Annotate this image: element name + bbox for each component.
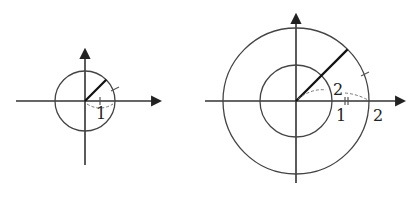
right-diagram: 2 1 2 — [205, 15, 404, 183]
right-arc-label: 2 — [333, 80, 343, 99]
left-radius-line — [85, 80, 106, 101]
right-inner-radius-label: 1 — [336, 106, 346, 125]
radian-diagrams: 1 2 1 2 — [0, 0, 416, 203]
right-outer-radius-label: 2 — [373, 106, 383, 125]
left-diagram: 1 — [16, 50, 160, 165]
left-radius-label: 1 — [96, 104, 106, 123]
